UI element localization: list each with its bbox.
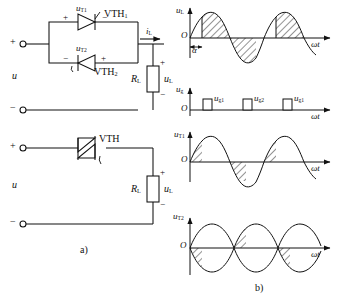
thyristor-1-name: VTH1 [104, 9, 128, 20]
thyristor-2-name: VTH2 [94, 67, 118, 78]
source-plus-top: + [10, 37, 16, 47]
source-label-top: u [12, 71, 17, 81]
caption-a: a) [80, 245, 88, 255]
waveform-3-origin: O [181, 155, 188, 164]
waveform-3-y-label: uT1 [174, 130, 185, 140]
figure-canvas [0, 0, 346, 303]
thyristor-2-voltage-label: uT2 [76, 44, 87, 54]
source-label-bottom: u [12, 180, 17, 190]
waveform-u-load [190, 8, 330, 63]
load-resistor-bottom [147, 176, 159, 202]
triac-symbol [78, 136, 101, 164]
load-current-label: iL [146, 27, 152, 37]
thyristor-1-voltage-label: uT1 [76, 4, 87, 14]
thyristor-2-plus: + [101, 54, 106, 63]
load-plus-top: + [160, 58, 165, 67]
figure-root: + − u uT1 VTH1 + − uT2 VTH2 − + iL RL uL… [0, 0, 346, 303]
load-resistor-label-top: RL [131, 74, 141, 85]
caption-b: b) [255, 283, 263, 293]
gate-pulse-label-3: ug1 [294, 94, 304, 104]
load-resistor-label-bottom: RL [131, 184, 141, 195]
load-plus-bottom: + [160, 168, 165, 177]
triac-name: VTH [99, 134, 120, 144]
waveform-u-thyristor2 [190, 218, 330, 275]
load-minus-top: − [160, 90, 165, 99]
load-voltage-label-bottom: uL [164, 184, 173, 195]
waveform-3-x-label: ωt [311, 164, 320, 173]
waveform-1-y-label: uL [176, 6, 184, 16]
thyristor-1-symbol [78, 12, 100, 30]
thyristor-1-minus: − [102, 13, 107, 22]
waveform-1-x-label: ωt [311, 40, 320, 49]
waveform-2-x-label: ωt [311, 112, 320, 121]
thyristor-2-minus: − [63, 54, 68, 63]
waveform-1-origin: O [181, 31, 188, 40]
thyristor-1-plus: + [63, 13, 68, 22]
waveform-4-origin: O [180, 241, 187, 250]
source-minus-top: − [10, 103, 16, 113]
load-resistor-top [147, 66, 159, 92]
source-plus-bottom: + [10, 141, 16, 151]
waveform-4-y-label: uT2 [173, 212, 184, 222]
load-voltage-label-top: uL [164, 74, 173, 85]
gate-pulse-label-2: ug2 [254, 94, 264, 104]
waveform-4-x-label: ωt [311, 250, 320, 259]
gate-pulse-label-1: ug1 [214, 94, 224, 104]
waveform-u-thyristor1 [190, 132, 330, 187]
waveform-1-alpha: α [192, 46, 197, 55]
source-minus-bottom: − [10, 217, 16, 227]
waveform-2-y-label: ug [176, 85, 183, 95]
load-minus-bottom: − [160, 200, 165, 209]
waveform-2-origin: O [181, 104, 188, 113]
